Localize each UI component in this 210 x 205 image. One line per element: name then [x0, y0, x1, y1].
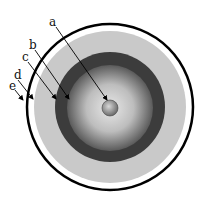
leader-e: [15, 90, 23, 100]
label-a: a: [49, 15, 56, 29]
label-b: b: [29, 38, 37, 52]
label-c: c: [22, 50, 29, 64]
core-sphere: [102, 100, 118, 116]
label-e: e: [9, 79, 16, 93]
layered-sphere-diagram: a b c d e: [0, 0, 210, 205]
